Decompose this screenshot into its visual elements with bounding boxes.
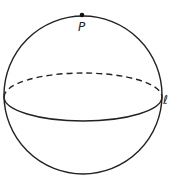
point-p (80, 13, 85, 18)
equator-front (4, 97, 162, 121)
point-p-label: P (78, 20, 86, 34)
equator-back-dashed (4, 73, 162, 97)
great-circle-label: ℓ (162, 93, 168, 107)
sphere-outline (4, 16, 162, 174)
sphere-diagram: P ℓ (0, 0, 171, 177)
